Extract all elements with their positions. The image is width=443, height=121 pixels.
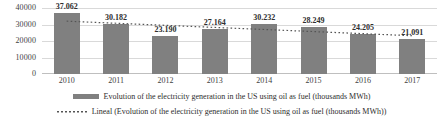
legend-item-trendline: Lineal (Evolution of the electricity gen… [0,104,443,119]
trendline-path [67,21,413,36]
chart-legend: Evolution of the electricity generation … [0,89,443,119]
x-axis-tick-label: 2010 [59,76,75,85]
y-axis: 400003000020000100000 [0,8,40,74]
y-axis-tick-label: 0 [32,70,36,78]
x-axis-tick-label: 2011 [108,76,124,85]
bar-swatch-icon [73,94,99,99]
x-axis-tick-label: 2013 [207,76,223,85]
x-axis-tick-label: 2012 [157,76,173,85]
y-axis-tick-label: 40000 [16,4,37,12]
legend-label-bars: Evolution of the electricity generation … [104,92,371,101]
x-axis-tick-label: 2014 [256,76,272,85]
x-axis-tick-label: 2017 [404,76,420,85]
x-axis: 20102011201220132014201520162017 [42,76,437,88]
dotted-line-swatch-icon [57,110,87,113]
x-axis-tick-label: 2016 [355,76,371,85]
chart-container: 400003000020000100000 37.06230.18223.190… [0,0,443,121]
y-axis-tick-label: 10000 [16,54,37,62]
legend-label-trendline: Lineal (Evolution of the electricity gen… [92,107,387,116]
plot-area: 37.06230.18223.19027.16430.23228.24924.2… [42,8,437,74]
legend-item-bars: Evolution of the electricity generation … [0,89,443,104]
x-axis-tick-label: 2015 [306,76,322,85]
y-axis-tick-label: 20000 [16,37,37,45]
trendline [42,8,437,74]
y-axis-tick-label: 30000 [16,21,37,29]
